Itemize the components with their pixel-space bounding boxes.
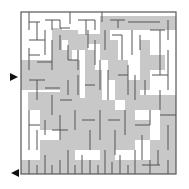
exit-arrow-icon	[11, 169, 19, 177]
maze-board	[0, 0, 189, 189]
entrance-arrow-icon	[10, 73, 18, 81]
